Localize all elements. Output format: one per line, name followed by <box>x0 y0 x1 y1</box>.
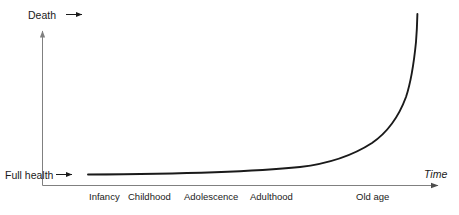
x-tick-label-infancy: Infancy <box>89 191 120 202</box>
health-decline-curve <box>88 14 417 175</box>
x-tick-label-adulthood: Adulthood <box>250 191 293 202</box>
y-axis-bottom-label: Full health <box>5 169 54 181</box>
y-axis-top-label: Death <box>28 9 56 21</box>
chart-canvas: Death Full health Time Infancy Childhood… <box>0 0 459 215</box>
x-tick-label-old-age: Old age <box>356 191 389 202</box>
health-decline-chart: Death Full health Time Infancy Childhood… <box>0 0 459 215</box>
x-axis-label: Time <box>424 168 447 180</box>
x-tick-label-adolescence: Adolescence <box>184 191 238 202</box>
x-tick-label-childhood: Childhood <box>128 191 171 202</box>
